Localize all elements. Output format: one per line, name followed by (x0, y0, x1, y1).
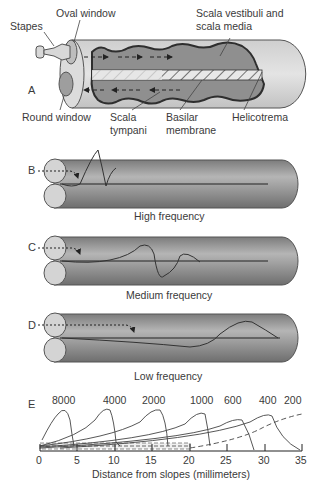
x-tick-20: 20 (183, 454, 195, 466)
x-tick-15: 15 (145, 454, 157, 466)
curve-label-2000: 2000 (142, 394, 166, 406)
caption-high-frequency: High frequency (134, 210, 205, 222)
panel-a: Stapes Oval window Scala vestibuli and s… (10, 7, 306, 136)
curve-label-600: 600 (224, 394, 242, 406)
cochlea-diagram: Stapes Oval window Scala vestibuli and s… (0, 0, 318, 482)
label-scala-tympani-2: tympani (110, 124, 147, 136)
x-axis-label: Distance from slopes (millimeters) (92, 468, 250, 480)
x-tick-10: 10 (108, 454, 120, 466)
label-helicotrema: Helicotrema (232, 111, 288, 123)
label-oval-window: Oval window (56, 7, 116, 19)
panel-b: B High frequency (28, 150, 298, 222)
curve-label-400: 400 (259, 394, 277, 406)
x-tick-35: 35 (295, 454, 307, 466)
panel-d: D Low frequency (28, 313, 298, 382)
label-basilar-1: Basilar (166, 111, 199, 123)
label-round-window: Round window (22, 111, 91, 123)
panel-d-letter: D (28, 319, 36, 331)
curve-label-8000: 8000 (52, 394, 76, 406)
label-scala-tympani-1: Scala (110, 111, 136, 123)
panel-e-chart: E 8000 4000 2000 1000 (28, 394, 307, 480)
caption-low-frequency: Low frequency (134, 370, 203, 382)
x-tick-5: 5 (74, 454, 80, 466)
label-scala-vestibuli-1: Scala vestibuli and (196, 7, 284, 19)
label-scala-vestibuli-2: scala media (196, 20, 252, 32)
curve-label-1000: 1000 (190, 394, 214, 406)
x-tick-30: 30 (258, 454, 270, 466)
label-stapes: Stapes (10, 20, 43, 32)
caption-medium-frequency: Medium frequency (126, 289, 213, 301)
label-basilar-2: membrane (166, 124, 216, 136)
panel-e-letter: E (28, 398, 35, 410)
panel-a-letter: A (28, 84, 36, 96)
panel-c: C Medium frequency (28, 236, 298, 301)
panel-b-letter: B (28, 164, 35, 176)
panel-c-letter: C (28, 241, 36, 253)
stapes-icon (36, 44, 70, 60)
curve-label-4000: 4000 (103, 394, 127, 406)
x-tick-0: 0 (36, 454, 42, 466)
curve-label-200: 200 (284, 394, 302, 406)
x-tick-25: 25 (220, 454, 232, 466)
